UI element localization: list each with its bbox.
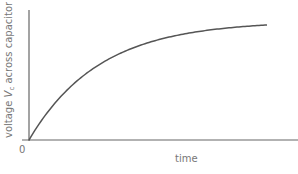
origin-label: 0: [19, 144, 25, 155]
y-axis-label: voltage Vc across capacitor: [3, 1, 16, 138]
x-axis-label: time: [175, 153, 198, 164]
chart: 0 time voltage Vc across capacitor: [0, 0, 298, 174]
charging-curve: [29, 25, 267, 140]
